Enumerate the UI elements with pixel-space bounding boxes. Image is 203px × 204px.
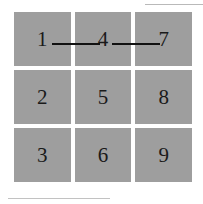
grid-cell-label: 6 — [98, 145, 109, 166]
grid-cell-label: 5 — [98, 87, 109, 108]
grid-cell-1[interactable]: 1 — [14, 12, 71, 66]
grid-cell-4[interactable]: 4 — [75, 12, 132, 66]
grid-cell-8[interactable]: 8 — [135, 70, 192, 124]
grid-cell-9[interactable]: 9 — [135, 128, 192, 182]
cell-grid: 1 4 7 2 5 8 3 6 9 — [14, 12, 192, 182]
grid-cell-2[interactable]: 2 — [14, 70, 71, 124]
grid-cell-label: 9 — [158, 145, 169, 166]
grid-cell-3[interactable]: 3 — [14, 128, 71, 182]
figure-root: 1 4 7 2 5 8 3 6 9 — [0, 0, 203, 204]
top-right-rule — [145, 4, 203, 5]
bottom-left-rule — [8, 198, 110, 199]
grid-cell-7[interactable]: 7 — [135, 12, 192, 66]
grid-cell-label: 1 — [37, 29, 48, 50]
grid-cell-5[interactable]: 5 — [75, 70, 132, 124]
grid-cell-6[interactable]: 6 — [75, 128, 132, 182]
grid-cell-label: 7 — [158, 29, 169, 50]
grid-cell-label: 4 — [98, 29, 109, 50]
grid-cell-label: 3 — [37, 145, 48, 166]
grid-cell-label: 8 — [158, 87, 169, 108]
grid-cell-label: 2 — [37, 87, 48, 108]
